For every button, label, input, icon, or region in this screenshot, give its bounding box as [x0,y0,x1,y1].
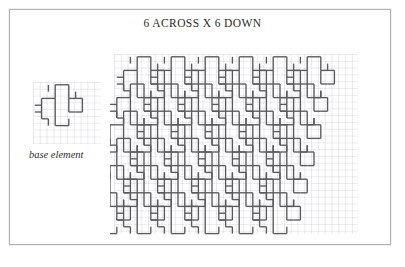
tessellation-figure [110,50,360,235]
base-element-outline [35,85,83,126]
tessellation-tiles [83,57,335,234]
page-title: 6 ACROSS X 6 DOWN [0,17,405,29]
diagram-page: 6 ACROSS X 6 DOWN [0,0,405,267]
base-element-figure [28,78,108,150]
base-element-caption: base element [29,149,84,160]
